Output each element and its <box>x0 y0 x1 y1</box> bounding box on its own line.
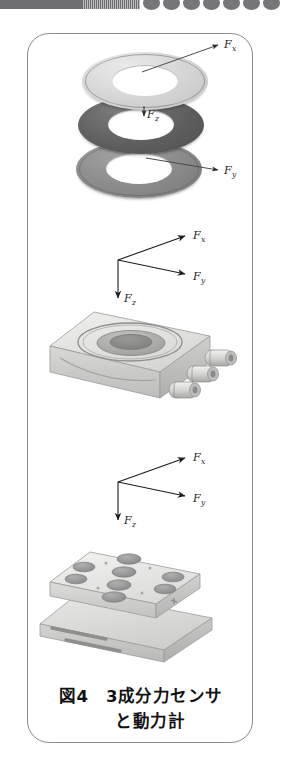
dyno-mounting-hole <box>102 592 126 602</box>
axis-arrow-fy <box>118 482 185 496</box>
dyno-pin-dot <box>105 562 108 565</box>
axis-label-fz: F <box>123 514 132 527</box>
force-label-fy: F <box>223 164 232 177</box>
axis-label-fx-subscript: x <box>201 235 206 244</box>
force-axis-triad-lower: F x F y F z <box>66 452 246 532</box>
dyno-mounting-hole <box>107 580 131 590</box>
force-label-fx-subscript: x <box>232 44 237 53</box>
sensor-center-bore <box>110 334 152 349</box>
figure-caption: 図4 3成分力センサ と動力計 <box>28 684 254 734</box>
dyno-mounting-hole <box>73 562 95 572</box>
force-label-fx: F <box>223 38 232 51</box>
force-label-fy-subscript: y <box>231 170 237 179</box>
axis-arrow-fx <box>118 458 185 482</box>
sensor-connector <box>205 350 237 366</box>
force-label-fz: F <box>146 108 155 121</box>
scan-band-dot <box>203 0 220 10</box>
scan-band-bar <box>0 0 140 9</box>
figure-caption-line2: と動力計 <box>28 709 254 734</box>
leader-line-fy <box>146 158 218 170</box>
sensor-connector <box>187 366 219 382</box>
scan-band-dot <box>263 0 280 10</box>
page-scan-artifact-band <box>0 0 282 11</box>
axis-label-fy: F <box>192 270 201 283</box>
scan-band-dot <box>163 0 180 10</box>
sensor-connector <box>169 382 201 398</box>
dyno-mounting-hole <box>65 574 87 584</box>
dyno-pin-dot <box>141 592 144 595</box>
scan-band-dot <box>243 0 260 10</box>
figure-panel: F x F z F y F x F y F <box>27 33 253 743</box>
axis-label-fx: F <box>192 229 201 242</box>
figure-caption-line1: 図4 3成分力センサ <box>59 687 223 706</box>
axis-label-fx: F <box>192 451 201 464</box>
triad-lower-svg: F x F y F z <box>66 452 246 532</box>
force-label-fz-subscript: z <box>154 114 159 123</box>
scan-band-dither-fade <box>82 0 140 9</box>
leader-line-fx <box>142 45 218 72</box>
dyno-mounting-hole <box>117 554 141 564</box>
dyno-mounting-hole <box>112 567 136 577</box>
axis-label-fy: F <box>192 492 201 505</box>
exploded-washer-stack: F x F z F y <box>68 46 248 206</box>
scan-band-dot <box>183 0 200 10</box>
triad-upper-svg: F x F y F z <box>66 230 246 310</box>
axis-label-fy-subscript: y <box>200 276 206 285</box>
dyno-mounting-hole <box>154 584 176 594</box>
axis-label-fy-subscript: y <box>200 498 206 507</box>
three-component-force-sensor <box>34 302 248 424</box>
dyno-pin-dot <box>97 587 100 590</box>
dyno-pin-dot <box>149 567 152 570</box>
axis-arrow-fy <box>118 260 185 274</box>
axis-label-fx-subscript: x <box>201 457 206 466</box>
dynamometer-svg <box>34 534 248 670</box>
dynamometer <box>34 534 248 670</box>
axis-label-fz-subscript: z <box>131 520 136 529</box>
scan-band-dot <box>143 0 160 10</box>
force-axis-triad-upper: F x F y F z <box>66 230 246 310</box>
ring-stack-leader-lines: F x F z F y <box>68 46 248 206</box>
sensor-svg <box>34 302 248 424</box>
axis-arrow-fx <box>118 236 185 260</box>
scan-band-dot <box>223 0 240 10</box>
dyno-mounting-hole <box>162 572 184 582</box>
